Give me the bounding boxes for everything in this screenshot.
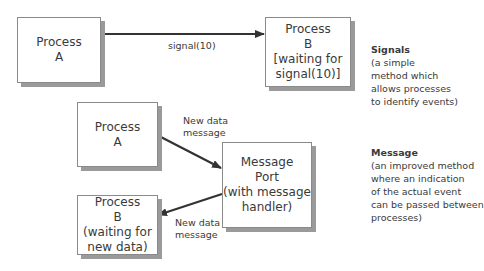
process-b-message-box: Process B (waiting for new data) [77, 195, 158, 255]
message-port-box: Message Port (with message handler) [222, 142, 312, 228]
box-line: Message [241, 155, 294, 170]
box-line: handler) [242, 200, 293, 215]
signals-note: Signals (a simple method which allows pr… [371, 43, 458, 108]
box-line: B [113, 210, 121, 225]
message-out-label: New data message [175, 217, 220, 241]
message-out-arrow [158, 194, 222, 215]
note-line: allows processes [371, 82, 458, 95]
process-a-signal-box: Process A [17, 17, 101, 83]
note-line: processes) [371, 211, 484, 224]
note-line: can be passed between [371, 198, 484, 211]
note-line: method which [371, 69, 458, 82]
box-line: Process [285, 22, 331, 37]
box-line: Port [255, 170, 279, 185]
signal-arrow-label: signal(10) [168, 40, 216, 52]
box-line: signal(10)] [276, 67, 341, 82]
note-line: to identify events) [371, 95, 458, 108]
process-a-message-box: Process A [77, 102, 158, 167]
note-line: (a simple [371, 56, 458, 69]
signals-note-title: Signals [371, 43, 458, 56]
box-line: Process [95, 120, 141, 135]
process-b-signal-box: Process B [waiting for signal(10)] [265, 17, 351, 87]
note-line: (an improved method [371, 159, 484, 172]
box-line: Process [36, 35, 82, 50]
label-line: message [175, 229, 220, 241]
note-line: where an indication [371, 172, 484, 185]
label-line: New data [175, 217, 220, 229]
message-note: Message (an improved method where an ind… [371, 146, 484, 224]
message-in-arrow [157, 135, 221, 168]
box-line: A [113, 135, 121, 150]
box-line: A [55, 50, 63, 65]
label-line: message [183, 127, 228, 139]
message-in-label: New data message [183, 115, 228, 139]
box-line: [waiting for [274, 52, 343, 67]
box-line: B [304, 37, 312, 52]
box-line: (with message [223, 185, 311, 200]
box-line: new data) [87, 240, 147, 255]
message-note-title: Message [371, 146, 484, 159]
box-line: Process [95, 195, 141, 210]
label-line: New data [183, 115, 228, 127]
note-line: of the actual event [371, 185, 484, 198]
box-line: (waiting for [83, 225, 152, 240]
